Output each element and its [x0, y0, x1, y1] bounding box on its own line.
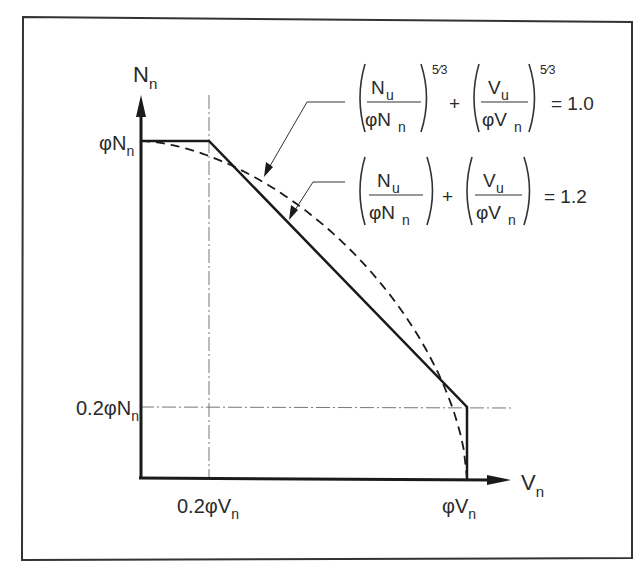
- x-axis-arrow-icon: [487, 475, 511, 485]
- svg-text:φV: φV: [482, 109, 507, 130]
- svg-text:n: n: [508, 212, 516, 228]
- power-interaction-curve: [141, 141, 467, 478]
- svg-text:= 1.0: = 1.0: [551, 93, 594, 114]
- interaction-diagram: Nn Vn φNn 0.2φNn 0.2φVn φVn N u φN n 5⁄3…: [0, 0, 639, 566]
- equation-linear: N u φN n + V u φV n = 1.2: [360, 157, 587, 228]
- exponent-5-3: 5⁄3: [432, 63, 448, 77]
- svg-text:φN: φN: [365, 109, 391, 130]
- svg-text:φV: φV: [476, 202, 501, 223]
- svg-text:φN: φN: [369, 202, 395, 223]
- svg-text:N: N: [377, 170, 391, 191]
- leader-arrow-eq1-icon: [264, 162, 273, 177]
- svg-text:V: V: [488, 77, 501, 98]
- y-axis-arrow-icon: [136, 95, 146, 117]
- svg-text:5⁄3: 5⁄3: [540, 63, 556, 77]
- linear-interaction-curve: [141, 141, 467, 479]
- equation-power: N u φN n 5⁄3 + V u φV n 5⁄3 = 1.0: [360, 63, 594, 135]
- tick-phiNn: φNn: [99, 132, 134, 159]
- svg-text:u: u: [496, 180, 504, 196]
- svg-text:+: +: [442, 186, 453, 207]
- svg-text:n: n: [398, 119, 406, 135]
- svg-text:N: N: [371, 77, 385, 98]
- y-axis-label: Nn: [133, 62, 157, 92]
- tick-0.2phiNn: 0.2φNn: [76, 397, 139, 424]
- leader-line-eq2: [295, 182, 345, 210]
- svg-text:+: +: [449, 93, 460, 114]
- svg-text:= 1.2: = 1.2: [544, 186, 587, 207]
- svg-text:n: n: [514, 119, 522, 135]
- leader-line-eq1: [270, 102, 345, 166]
- svg-text:V: V: [483, 170, 496, 191]
- tick-phiVn: φVn: [442, 495, 476, 522]
- svg-text:u: u: [392, 180, 400, 196]
- svg-text:n: n: [402, 212, 410, 228]
- x-axis: [139, 478, 494, 480]
- ref-line-0.2phiNn: [140, 407, 514, 408]
- svg-text:u: u: [386, 87, 394, 103]
- tick-0.2phiVn: 0.2φVn: [177, 495, 239, 522]
- svg-text:u: u: [501, 87, 509, 103]
- x-axis-label: Vn: [521, 470, 544, 500]
